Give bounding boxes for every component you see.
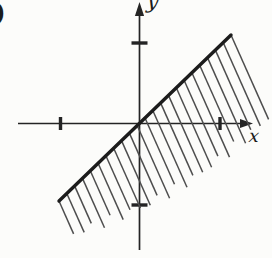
hatch-stroke xyxy=(208,58,246,144)
hatch-stroke xyxy=(83,178,105,227)
hatch-stroke xyxy=(114,148,141,208)
hatch-stroke xyxy=(67,194,84,233)
hatch-stroke xyxy=(223,43,260,126)
hatch-stroke xyxy=(129,133,157,195)
graph-figure: ) x y xyxy=(0,0,272,258)
hatch-stroke xyxy=(59,201,74,234)
hatch-stroke xyxy=(90,171,110,216)
hatch-stroke xyxy=(192,73,230,157)
corner-paren-fragment: ) xyxy=(0,0,6,26)
x-axis-label: x xyxy=(248,127,260,145)
hatch-stroke xyxy=(98,163,123,219)
hatch-stroke xyxy=(122,141,151,206)
boundary-line xyxy=(59,35,231,201)
y-axis-arrowhead xyxy=(135,2,144,16)
hatch-stroke xyxy=(231,35,269,119)
hatch-stroke xyxy=(176,88,211,167)
y-axis-label: y xyxy=(146,0,160,12)
inequality-graph-svg xyxy=(0,0,272,258)
hatch-stroke xyxy=(106,156,130,210)
